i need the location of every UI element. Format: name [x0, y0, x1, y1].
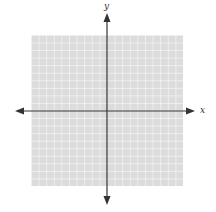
y-axis-up-arrow-icon	[104, 13, 111, 22]
x-axis-label: x	[200, 106, 205, 115]
y-axis-label: y	[104, 2, 109, 11]
x-axis-left-arrow-icon	[15, 108, 24, 115]
x-axis-right-arrow-icon	[186, 108, 195, 115]
coordinate-grid	[0, 0, 216, 212]
y-axis-down-arrow-icon	[104, 196, 111, 205]
